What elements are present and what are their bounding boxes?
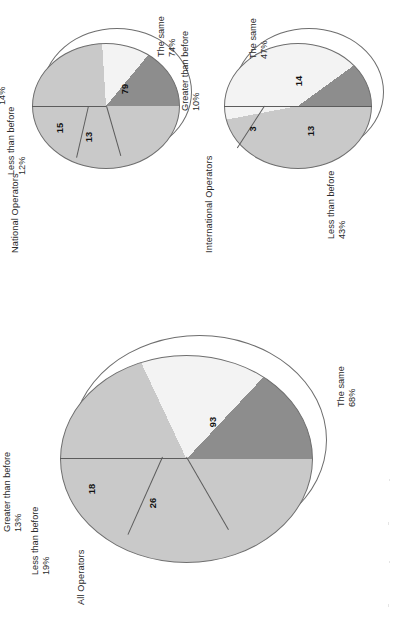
scan-artifact — [389, 561, 390, 563]
callout-national-greater-than-before: Greater than before 14% — [0, 25, 8, 105]
callout-label-international-less: Less than before — [326, 171, 336, 239]
chart-all-operators: All Operators 93 26 18 Less than before … — [6, 311, 391, 611]
callout-pct-national-less: 12% — [17, 107, 28, 175]
callout-pct-international-less: 43% — [337, 171, 348, 239]
pie-wrap-all-operators: 93 26 18 — [34, 317, 374, 567]
slice-value-international-greater: 3 — [247, 126, 258, 131]
chart-international-operators: International Operators 14 13 3 Less tha… — [196, 7, 394, 257]
slice-value-international-same: 14 — [293, 76, 304, 86]
scan-artifact — [388, 604, 389, 607]
callout-all-less-than-before: Less than before 19% — [30, 507, 52, 575]
callout-pct-all-greater: 13% — [13, 452, 24, 532]
callout-pct-international-greater: 10% — [191, 31, 202, 111]
callout-international-greater-than-before: Greater than before 10% — [180, 31, 202, 111]
callout-label-international-greater: Greater than before — [180, 31, 190, 111]
callout-all-the-same: The same 68% — [336, 366, 358, 407]
callout-pct-national-same: 74% — [167, 16, 178, 57]
slice-value-all-less: 26 — [147, 498, 158, 508]
callout-national-the-same: The same 74% — [156, 16, 178, 57]
callout-national-less-than-before: Less than before 12% — [6, 107, 28, 175]
scan-artifact — [389, 479, 390, 481]
callout-label-national-same: The same — [156, 16, 166, 57]
slice-value-all-greater: 18 — [86, 484, 97, 494]
callout-pct-all-less: 19% — [41, 507, 52, 575]
slice-value-national-less: 13 — [83, 132, 94, 142]
document-page: All Operators 93 26 18 Less than before … — [0, 0, 395, 629]
callout-label-all-greater: Greater than before — [2, 452, 12, 532]
callout-all-greater-than-before: Greater than before 13% — [2, 452, 24, 532]
chart-title-national-operators: National Operators — [10, 173, 20, 253]
pie-divider-international-1 — [224, 106, 298, 107]
scan-artifact — [388, 522, 389, 525]
pie-divider-national-1 — [32, 106, 106, 107]
callout-international-less-than-before: Less than before 43% — [326, 171, 348, 239]
callout-pct-all-same: 68% — [347, 366, 358, 407]
chart-national-operators: National Operators 79 13 15 Less than be… — [2, 7, 202, 257]
callout-label-national-less: Less than before — [6, 107, 16, 175]
callout-international-the-same: The same 47% — [248, 18, 270, 59]
pie-wrap-international-operators: 14 13 3 — [208, 13, 383, 173]
rotated-page-canvas: All Operators 93 26 18 Less than before … — [0, 0, 395, 629]
callout-label-all-same: The same — [336, 366, 346, 407]
slice-value-all-same: 93 — [207, 417, 218, 427]
callout-pct-national-greater: 14% — [0, 25, 8, 105]
callout-label-all-less: Less than before — [30, 507, 40, 575]
slice-value-national-greater: 15 — [54, 123, 65, 133]
pie-divider-international-2 — [297, 106, 372, 107]
slice-value-international-less: 13 — [305, 126, 316, 136]
slice-value-national-same: 79 — [119, 84, 130, 94]
callout-label-international-same: The same — [248, 18, 258, 59]
pie-divider-all-1 — [60, 458, 187, 459]
callout-pct-international-same: 47% — [259, 18, 270, 59]
